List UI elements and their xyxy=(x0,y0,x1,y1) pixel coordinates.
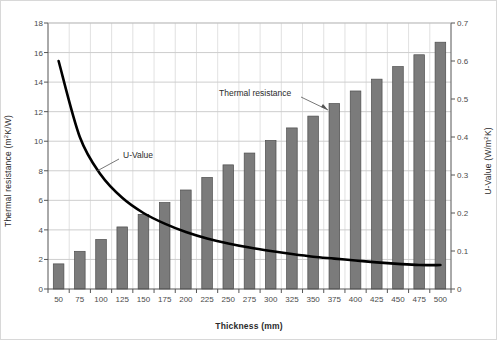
y-tick-right-0: 0 xyxy=(457,285,461,294)
x-tick-175: 175 xyxy=(158,295,171,304)
x-tick-200: 200 xyxy=(179,295,192,304)
y-tick-left-4: 4 xyxy=(25,225,43,234)
bar-500 xyxy=(435,42,446,289)
y-axis-left-title: Thermal resistance (m2K/W) xyxy=(3,115,14,227)
bar-350 xyxy=(308,116,319,289)
bar-300 xyxy=(265,140,276,289)
bar-100 xyxy=(96,239,107,289)
y-tick-left-6: 6 xyxy=(25,196,43,205)
bar-450 xyxy=(393,67,404,289)
bar-75 xyxy=(75,251,86,289)
bar-175 xyxy=(159,203,170,289)
y-tick-left-8: 8 xyxy=(25,166,43,175)
bar-50 xyxy=(53,264,64,289)
x-tick-400: 400 xyxy=(349,295,362,304)
y-tick-right-0.1: 0.1 xyxy=(457,247,468,256)
x-tick-375: 375 xyxy=(328,295,341,304)
bar-325 xyxy=(287,128,298,289)
chart-figure: Thermal resistance (m2K/W) U-Value (W/m2… xyxy=(0,0,497,340)
bar-150 xyxy=(138,214,149,289)
x-tick-425: 425 xyxy=(370,295,383,304)
x-tick-300: 300 xyxy=(264,295,277,304)
bar-475 xyxy=(414,55,425,289)
y-axis-right-title: U-Value (W/m2K) xyxy=(483,127,494,195)
y-tick-left-14: 14 xyxy=(25,78,43,87)
bar-225 xyxy=(202,177,213,289)
bar-250 xyxy=(223,165,234,289)
y-tick-left-18: 18 xyxy=(25,19,43,28)
bar-200 xyxy=(181,190,192,289)
y-tick-left-2: 2 xyxy=(25,255,43,264)
y-tick-right-0.3: 0.3 xyxy=(457,171,468,180)
annotation-u-value: U-Value xyxy=(123,150,153,160)
bar-125 xyxy=(117,227,128,289)
x-tick-50: 50 xyxy=(54,295,63,304)
y-tick-right-0.4: 0.4 xyxy=(457,133,468,142)
x-tick-100: 100 xyxy=(94,295,107,304)
y-tick-left-0: 0 xyxy=(25,285,43,294)
x-tick-450: 450 xyxy=(391,295,404,304)
x-tick-75: 75 xyxy=(75,295,84,304)
annotation-thermal-resistance: Thermal resistance xyxy=(219,88,291,98)
x-tick-350: 350 xyxy=(306,295,319,304)
x-tick-275: 275 xyxy=(243,295,256,304)
y-tick-left-10: 10 xyxy=(25,137,43,146)
bar-275 xyxy=(244,153,255,289)
x-tick-500: 500 xyxy=(434,295,447,304)
y-tick-right-0.5: 0.5 xyxy=(457,95,468,104)
y-tick-right-0.7: 0.7 xyxy=(457,19,468,28)
y-tick-left-16: 16 xyxy=(25,48,43,57)
x-tick-150: 150 xyxy=(137,295,150,304)
x-axis-title: Thickness (mm) xyxy=(215,321,283,331)
y-tick-right-0.2: 0.2 xyxy=(457,209,468,218)
y-tick-left-12: 12 xyxy=(25,107,43,116)
chart-plot-area xyxy=(1,1,497,340)
y-tick-right-0.6: 0.6 xyxy=(457,57,468,66)
x-tick-225: 225 xyxy=(200,295,213,304)
x-tick-475: 475 xyxy=(412,295,425,304)
bar-425 xyxy=(371,79,382,289)
x-tick-125: 125 xyxy=(116,295,129,304)
x-tick-325: 325 xyxy=(285,295,298,304)
x-tick-250: 250 xyxy=(222,295,235,304)
bar-375 xyxy=(329,104,340,289)
